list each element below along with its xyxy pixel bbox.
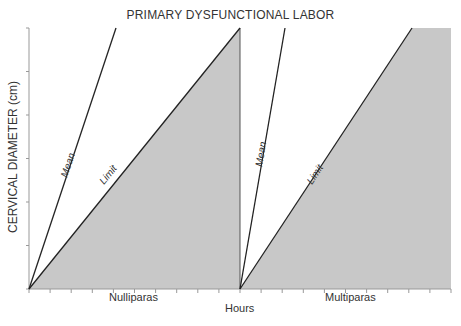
nulliparas-mean-label: Mean <box>58 151 76 179</box>
chart-plot: Mean Limit Mean Limit <box>0 0 461 326</box>
x-axis-ticks <box>29 289 451 293</box>
multiparas-mean-label: Mean <box>253 140 268 167</box>
multiparas-shaded-region <box>240 28 451 289</box>
